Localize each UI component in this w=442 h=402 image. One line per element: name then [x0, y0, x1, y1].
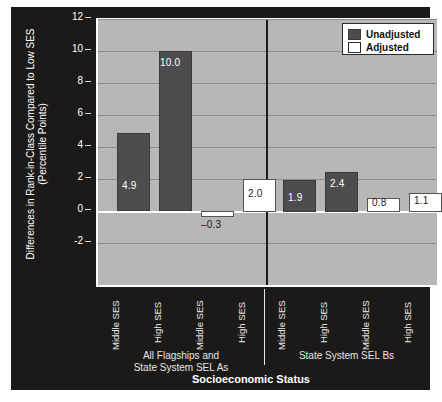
legend-swatch-unadjusted-icon	[348, 29, 361, 40]
x-tick-label-group1-high-ses-adj: High SES	[237, 302, 247, 343]
y-tick-label-10: 10	[55, 44, 83, 54]
y-tick-mark-2	[85, 177, 91, 178]
legend-item-unadjusted[interactable]: Unadjusted	[348, 28, 427, 41]
bar-unadjusted-high-ses-group1[interactable]	[159, 51, 192, 211]
y-tick-mark-6	[85, 113, 91, 114]
group-label-all-flagships: All Flagships and State System SEL As	[101, 350, 261, 374]
chart-panel: Differences in Rank-in-Class Compared to…	[11, 7, 430, 390]
x-tick-label-group1-middle-ses-adj: Middle SES	[195, 300, 205, 350]
x-axis-title: Socioeconomic Status	[101, 373, 401, 385]
group-label-state-system-sel-bs: State System SEL Bs	[269, 350, 424, 362]
legend-swatch-adjusted-icon	[348, 42, 361, 53]
y-tick-mark-8	[85, 81, 91, 82]
group-label-line2: State System SEL As	[134, 362, 229, 373]
x-tick-label-group2-high-ses: High SES	[319, 302, 329, 343]
x-tick-label-group1-high-ses: High SES	[153, 302, 163, 343]
group-label-line1: All Flagships and	[143, 350, 219, 361]
bar-value-label-4-9: 4.9	[122, 180, 137, 191]
y-tick-label-8: 8	[55, 76, 83, 86]
bar-value-label-2-0: 2.0	[248, 188, 263, 199]
y-tick-label-2: 2	[55, 172, 83, 182]
plot-area: 4.9 10.0 –0.3 2.0 1.9 2.4 0.8 1.1 Unadju…	[96, 18, 439, 287]
bar-value-label-2-4: 2.4	[330, 178, 345, 189]
y-tick-label-0: 0	[55, 204, 83, 214]
y-axis-title: Differences in Rank-in-Class Compared to…	[25, 13, 49, 275]
bar-value-label-1-9: 1.9	[288, 192, 303, 203]
bar-value-label-0-8: 0.8	[372, 197, 387, 208]
y-tick-label-4: 4	[55, 140, 83, 150]
bar-unadjusted-middle-ses-group1[interactable]	[117, 133, 150, 211]
x-tick-label-group2-middle-ses-adj: Middle SES	[361, 300, 371, 350]
x-tick-label-group1-middle-ses: Middle SES	[111, 300, 121, 350]
bar-value-label-minus0-3: –0.3	[201, 219, 221, 230]
y-axis-title-line1: Differences in Rank-in-Class Compared to…	[25, 28, 36, 259]
y-tick-mark-12	[85, 17, 91, 18]
group-label-line1: State System SEL Bs	[299, 350, 394, 361]
bar-value-label-1-1: 1.1	[414, 195, 429, 206]
x-axis-group-separator	[264, 289, 265, 365]
y-tick-label-minus2: -2	[55, 236, 83, 246]
y-tick-label-6: 6	[55, 108, 83, 118]
y-tick-mark-minus2	[85, 241, 91, 242]
y-axis-title-line2: (Percentile Points)	[37, 103, 48, 185]
x-tick-label-group2-high-ses-adj: High SES	[403, 302, 413, 343]
group-divider	[266, 20, 268, 285]
y-tick-label-12: 12	[55, 12, 83, 22]
bar-value-label-10-0: 10.0	[160, 57, 180, 68]
bar-adjusted-middle-ses-group1[interactable]	[201, 211, 234, 217]
x-tick-label-group2-middle-ses: Middle SES	[277, 300, 287, 350]
y-tick-mark-0	[85, 209, 91, 210]
y-tick-mark-4	[85, 145, 91, 146]
legend-label-unadjusted: Unadjusted	[366, 29, 420, 40]
legend-label-adjusted: Adjusted	[366, 42, 409, 53]
chart-legend: Unadjusted Adjusted	[342, 23, 434, 55]
y-tick-mark-10	[85, 49, 91, 50]
legend-item-adjusted[interactable]: Adjusted	[348, 41, 427, 54]
